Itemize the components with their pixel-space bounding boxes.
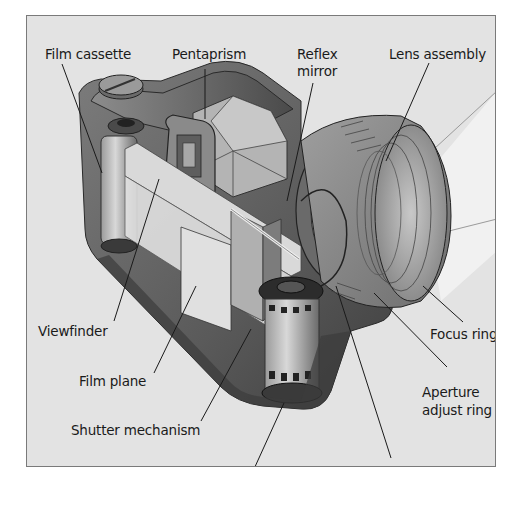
label-focus-ring: Focus ring (430, 326, 496, 343)
label-film-cassette: Film cassette (45, 46, 131, 63)
label-film-plane: Film plane (79, 373, 146, 390)
diagram-frame: Film cassette Pentaprism Reflex mirror L… (26, 15, 496, 467)
leader-take-up-spool (254, 403, 284, 467)
front-lens-element (375, 125, 447, 301)
label-lens-assembly: Lens assembly (389, 46, 486, 63)
label-viewfinder: Viewfinder (38, 323, 108, 340)
label-pentaprism: Pentaprism (172, 46, 246, 63)
label-shutter-mechanism: Shutter mechanism (71, 422, 200, 439)
label-aperture-adjust-ring-line2: adjust ring (422, 402, 492, 419)
label-aperture-adjust-ring-line1: Aperture (422, 384, 479, 401)
label-reflex-mirror-line2: mirror (297, 63, 337, 80)
film-plane (181, 227, 231, 331)
label-reflex-mirror-line1: Reflex (297, 46, 337, 63)
